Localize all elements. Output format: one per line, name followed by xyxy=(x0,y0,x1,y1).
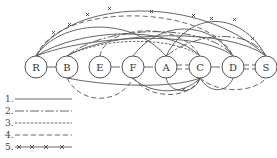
node-label: F xyxy=(130,62,137,73)
node-D: D xyxy=(222,56,244,78)
legend-item-2: 2. xyxy=(5,106,72,116)
node-label: A xyxy=(161,62,170,73)
edges xyxy=(36,7,266,98)
node-F: F xyxy=(122,56,144,78)
edge-solid-F-D xyxy=(133,29,233,56)
node-label: E xyxy=(96,62,103,73)
graph-diagram: R B E F A C D S 1. 2. 3. 4. 5. xyxy=(0,0,277,158)
node-S: S xyxy=(255,56,277,78)
node-A: A xyxy=(155,56,177,78)
legend-number: 2. xyxy=(5,106,14,116)
node-R: R xyxy=(25,56,47,78)
legend-number: 1. xyxy=(5,94,14,104)
node-E: E xyxy=(89,56,111,78)
legend-number: 3. xyxy=(5,118,14,128)
node-B: B xyxy=(56,56,78,78)
edge-dashed-B-F-lower xyxy=(67,78,133,98)
legend-number: 4. xyxy=(5,130,14,140)
legend-item-1: 1. xyxy=(5,94,72,104)
legend: 1. 2. 3. 4. 5. xyxy=(5,94,72,152)
node-C: C xyxy=(189,56,211,78)
legend-item-5: 5. xyxy=(5,142,72,152)
edge-dashed-R-D xyxy=(36,16,233,56)
edge-crossed-R-S xyxy=(36,11,266,56)
node-label: B xyxy=(63,62,70,73)
edge-dashed-E-C xyxy=(100,31,200,56)
node-label: S xyxy=(263,62,270,73)
edge-solid-R-C xyxy=(36,34,200,56)
node-label: R xyxy=(32,62,40,73)
node-label: C xyxy=(196,62,204,73)
legend-number: 5. xyxy=(5,142,14,152)
legend-item-4: 4. xyxy=(5,130,72,140)
edge-solid-C-D-lower xyxy=(200,78,233,90)
node-label: D xyxy=(229,62,237,73)
legend-item-3: 3. xyxy=(5,118,72,128)
